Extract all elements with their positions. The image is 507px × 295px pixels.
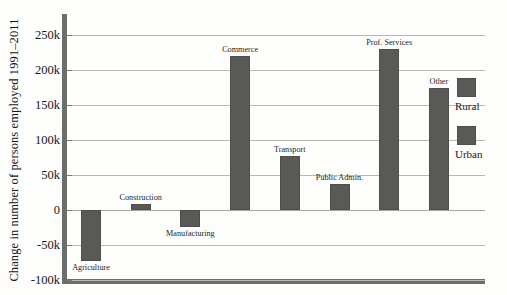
y-tick-label: 250k (6, 29, 60, 42)
gridline (67, 140, 485, 141)
y-tick-mark (67, 140, 72, 141)
bar-other (429, 88, 449, 211)
y-tick-label: 50k (6, 169, 60, 182)
gridline (67, 210, 485, 211)
gridline (67, 175, 485, 176)
bar-label: Agriculture (46, 263, 136, 272)
bar-prof-services (379, 49, 399, 210)
y-axis-tick-labels: 250k200k150k100k50k0-50k-100k (0, 0, 60, 295)
bar-label: Prof. Services (344, 38, 434, 47)
legend-swatch-urban (457, 126, 476, 145)
plot-area: AgricultureConstructionManufacturingComm… (67, 14, 485, 280)
bar-label: Public Admin. (295, 173, 385, 182)
y-tick-label: -100k (6, 274, 60, 287)
y-tick-label: 200k (6, 64, 60, 77)
y-tick-mark (67, 35, 72, 36)
bar-transport (280, 156, 300, 210)
legend-entry-urban: Urban (455, 126, 507, 161)
bar-commerce (230, 56, 250, 210)
y-tick-mark (67, 175, 72, 176)
y-tick-mark (67, 210, 72, 211)
gridline (67, 245, 485, 246)
gridline (67, 70, 485, 71)
y-tick-mark (67, 280, 72, 281)
y-tick-label: 150k (6, 99, 60, 112)
bar-label: Manufacturing (145, 229, 235, 238)
y-tick-label: 0 (6, 204, 60, 217)
gridline (67, 105, 485, 106)
bar-public-admin (330, 184, 350, 210)
gridline (67, 35, 485, 36)
y-tick-mark (67, 70, 72, 71)
bar-label: Transport (245, 145, 335, 154)
bar-agriculture (81, 210, 101, 261)
legend-label-urban: Urban (455, 147, 507, 161)
legend-swatch-rural (457, 78, 476, 97)
chart-figure: Change in number of persons employed 199… (0, 0, 507, 295)
bar-label: Commerce (195, 45, 285, 54)
y-tick-label: -50k (6, 239, 60, 252)
y-tick-mark (67, 245, 72, 246)
bar-construction (131, 204, 151, 210)
y-tick-label: 100k (6, 134, 60, 147)
y-tick-mark (67, 105, 72, 106)
bar-label: Construction (96, 193, 186, 202)
chart-legend: Rural Urban (455, 78, 507, 174)
gridline (67, 280, 485, 281)
legend-entry-rural: Rural (455, 78, 507, 113)
legend-label-rural: Rural (455, 99, 507, 113)
bar-manufacturing (180, 210, 200, 227)
